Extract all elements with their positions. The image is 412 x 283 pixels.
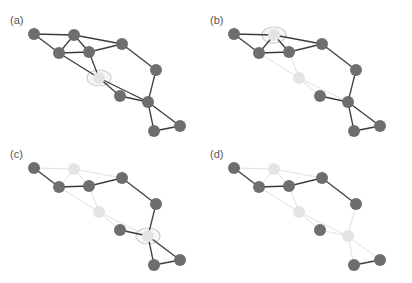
- edge: [122, 178, 156, 204]
- node: [350, 198, 362, 210]
- removed-edge: [34, 168, 74, 169]
- node: [148, 259, 160, 271]
- node: [116, 172, 128, 184]
- node: [150, 198, 162, 210]
- removed-edge: [59, 187, 99, 212]
- edge: [34, 34, 74, 35]
- node: [316, 38, 328, 50]
- node: [28, 28, 40, 40]
- highlighted-node: [142, 230, 154, 242]
- removed-node: [293, 72, 305, 84]
- node: [314, 90, 326, 102]
- panel-label: (b): [210, 14, 223, 26]
- panel-label: (a): [10, 14, 23, 26]
- node: [116, 38, 128, 50]
- edge: [59, 53, 99, 78]
- node: [314, 224, 326, 236]
- network-removal-figure: (a) (b) (c) (d): [0, 0, 412, 283]
- edge: [322, 44, 356, 70]
- removed-node: [268, 163, 280, 175]
- node: [253, 181, 265, 193]
- node: [53, 47, 65, 59]
- node: [316, 172, 328, 184]
- node: [253, 47, 265, 59]
- node: [342, 96, 354, 108]
- node: [228, 28, 240, 40]
- node: [228, 162, 240, 174]
- node: [68, 29, 80, 41]
- node: [348, 125, 360, 137]
- node: [350, 64, 362, 76]
- removed-node: [68, 163, 80, 175]
- panel-label: (d): [210, 148, 223, 160]
- removed-node: [293, 206, 305, 218]
- panel-c: (c): [10, 148, 186, 271]
- removed-edge: [234, 168, 274, 169]
- panel-a: (a): [10, 14, 186, 137]
- node: [114, 90, 126, 102]
- node: [83, 46, 95, 58]
- node: [174, 120, 186, 132]
- edge: [322, 178, 356, 204]
- panel-label: (c): [10, 148, 23, 160]
- panel-d: (d): [210, 148, 386, 271]
- panel-b: (b): [210, 14, 386, 137]
- node: [283, 46, 295, 58]
- node: [374, 120, 386, 132]
- node: [348, 259, 360, 271]
- node: [114, 224, 126, 236]
- node: [28, 162, 40, 174]
- highlighted-node: [93, 72, 105, 84]
- node: [148, 125, 160, 137]
- node: [283, 180, 295, 192]
- edge: [122, 44, 156, 70]
- removed-node: [342, 230, 354, 242]
- removed-edge: [259, 187, 299, 212]
- node: [53, 181, 65, 193]
- node: [374, 254, 386, 266]
- node: [150, 64, 162, 76]
- removed-node: [93, 206, 105, 218]
- node: [142, 96, 154, 108]
- removed-edge: [259, 53, 299, 78]
- highlighted-node: [268, 29, 280, 41]
- node: [83, 180, 95, 192]
- node: [174, 254, 186, 266]
